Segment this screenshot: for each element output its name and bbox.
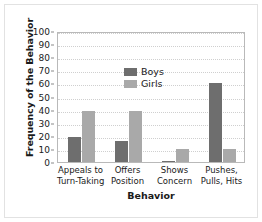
x-tick-label: ShowsConcern	[151, 165, 198, 187]
y-tick-mark	[51, 32, 54, 33]
legend-swatch-girls	[124, 80, 137, 88]
y-tick-label: 60	[39, 79, 50, 89]
y-tick-label: 0	[44, 158, 50, 168]
x-tick-label-line: Shows	[151, 165, 198, 176]
x-tick-label-line: Appeals to	[57, 165, 104, 176]
y-tick-label: 30	[39, 119, 50, 129]
bar-boys	[68, 137, 81, 162]
x-tick-label: Appeals toTurn-Taking	[57, 165, 104, 187]
bar-girls	[82, 111, 95, 162]
x-tick-label-line: Offers	[104, 165, 151, 176]
chart-legend: Boys Girls	[124, 67, 184, 91]
x-tick-label-line: Turn-Taking	[57, 176, 104, 187]
bar-group	[162, 33, 189, 162]
x-axis-title: Behavior	[57, 190, 245, 201]
y-tick-mark	[51, 110, 54, 111]
x-tick-label-line: Pulls, Hits	[198, 176, 245, 187]
legend-item-girls: Girls	[124, 79, 184, 89]
x-tick-label: Pushes,Pulls, Hits	[198, 165, 245, 187]
y-tick-mark	[51, 58, 54, 59]
bar-boys	[115, 141, 128, 162]
legend-label-boys: Boys	[141, 67, 164, 77]
x-tick-label-line: Pushes,	[198, 165, 245, 176]
bar-girls	[223, 149, 236, 162]
x-tick-label-line: Position	[104, 176, 151, 187]
bar-group	[68, 33, 95, 162]
y-tick-label: 10	[39, 145, 50, 155]
plot-area: Boys Girls	[57, 32, 245, 163]
y-tick-label: 50	[39, 93, 50, 103]
chart-figure: Frequency of the Behavior 01020304050607…	[0, 0, 262, 222]
y-tick-label: 100	[33, 27, 50, 37]
legend-swatch-boys	[124, 68, 137, 76]
y-tick-mark	[51, 123, 54, 124]
y-tick-mark	[51, 97, 54, 98]
y-tick-mark	[51, 84, 54, 85]
y-tick-label: 80	[39, 53, 50, 63]
bar-girls	[176, 149, 189, 162]
x-tick-label-line: Concern	[151, 176, 198, 187]
legend-label-girls: Girls	[141, 79, 163, 89]
y-tick-label: 70	[39, 66, 50, 76]
y-tick-mark	[51, 71, 54, 72]
y-tick-label: 90	[39, 40, 50, 50]
y-tick-label: 40	[39, 106, 50, 116]
bar-boys	[162, 161, 175, 162]
y-tick-label: 20	[39, 132, 50, 142]
bar-group	[209, 33, 236, 162]
y-axis-tick-labels: 0102030405060708090100	[30, 32, 54, 163]
x-axis-tick-labels: Appeals toTurn-TakingOffersPositionShows…	[57, 165, 245, 193]
legend-item-boys: Boys	[124, 67, 184, 77]
y-tick-mark	[51, 163, 54, 164]
bar-group	[115, 33, 142, 162]
bar-boys	[209, 83, 222, 162]
x-tick-label: OffersPosition	[104, 165, 151, 187]
y-tick-mark	[51, 149, 54, 150]
y-tick-mark	[51, 45, 54, 46]
y-tick-mark	[51, 136, 54, 137]
bar-girls	[129, 111, 142, 162]
